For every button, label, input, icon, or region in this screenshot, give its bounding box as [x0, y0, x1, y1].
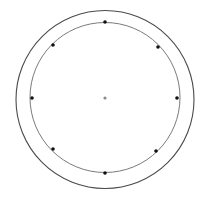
point-lower-left: [51, 147, 55, 151]
circle-diagram: [0, 0, 204, 208]
point-upper-left: [51, 43, 55, 47]
point-right: [175, 96, 179, 100]
point-bottom: [103, 171, 107, 175]
point-lower-right: [154, 149, 158, 153]
point-left: [30, 96, 34, 100]
center-point: [103, 96, 106, 99]
point-upper-right: [156, 45, 160, 49]
point-top: [103, 20, 107, 24]
